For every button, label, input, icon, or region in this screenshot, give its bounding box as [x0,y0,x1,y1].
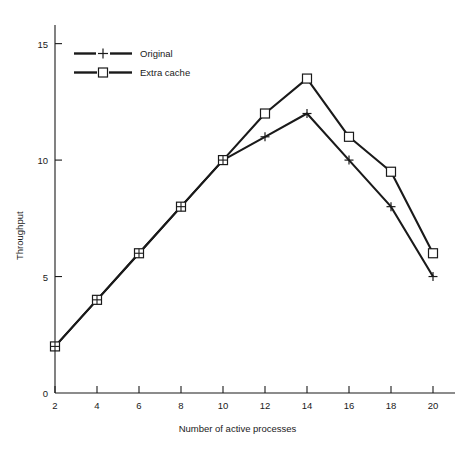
legend-label-extra-cache: Extra cache [140,67,190,78]
plus-marker [261,132,270,141]
y-tick-label: 5 [24,271,48,282]
combined-marker [135,249,144,258]
x-tick-label: 14 [302,400,313,411]
x-axis-ticks [55,386,433,393]
x-tick-label: 8 [178,400,183,411]
x-tick-label: 4 [94,400,99,411]
series-line [55,79,433,347]
combined-marker [177,202,186,211]
x-tick-label: 6 [136,400,141,411]
series-line [55,114,433,347]
square-marker [429,249,438,258]
square-marker [345,132,354,141]
x-axis-label: Number of active processes [0,423,475,434]
combined-marker [51,342,60,351]
y-axis-ticks [55,44,62,277]
plus-marker [429,272,438,281]
x-tick-label: 12 [260,400,271,411]
y-tick-label: 15 [24,38,48,49]
combined-marker [219,156,228,165]
square-marker [261,109,270,118]
x-tick-label: 20 [428,400,439,411]
square-marker-icon [72,63,134,82]
plus-marker-icon [72,44,134,63]
x-tick-label: 18 [386,400,397,411]
x-tick-label: 16 [344,400,355,411]
y-origin-label: 0 [24,388,48,399]
y-axis-label: Throughput [14,211,25,260]
combined-marker [93,295,102,304]
chart-figure: 5101502468101214161820 Throughput Number… [0,0,475,450]
legend-label-original: Original [140,48,173,59]
square-marker [387,167,396,176]
x-tick-label: 10 [218,400,229,411]
x-tick-label: 2 [52,400,57,411]
data-series-layer [51,74,438,351]
square-marker [303,74,312,83]
y-tick-label: 10 [24,155,48,166]
